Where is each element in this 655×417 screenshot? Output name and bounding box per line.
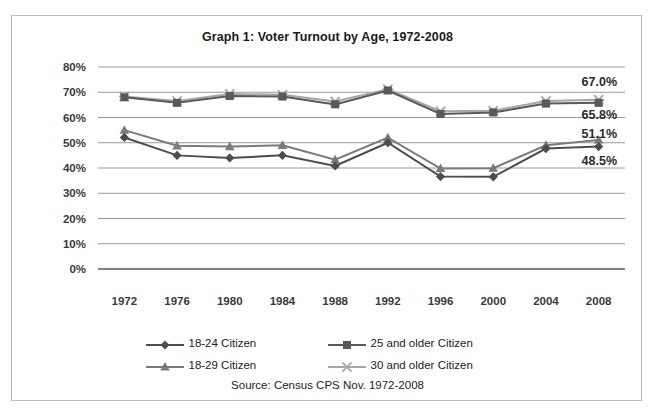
y-axis-tick-label: 40% — [63, 162, 86, 174]
legend-row-1: 18-24 Citizen 25 and older Citizen — [12, 332, 643, 354]
x-axis-tick-label: 2000 — [480, 295, 506, 307]
series-marker — [489, 108, 497, 116]
x-axis-tick-label: 1996 — [428, 295, 454, 307]
legend-row-2: 18-29 Citizen 30 and older Citizen — [12, 354, 643, 376]
legend-swatch-x-icon — [328, 359, 366, 371]
x-axis-tick-label: 1984 — [270, 295, 296, 307]
y-axis-tick-label: 50% — [63, 137, 86, 149]
series-line — [124, 90, 598, 113]
y-axis-tick-label: 10% — [63, 238, 86, 250]
x-axis-tick-label: 1988 — [322, 295, 348, 307]
legend-label: 18-24 Citizen — [189, 337, 257, 349]
series-marker — [437, 110, 445, 118]
series-marker — [226, 92, 234, 100]
series-line — [124, 130, 598, 168]
legend-label: 18-29 Citizen — [189, 359, 257, 371]
legend-swatch-diamond-icon — [146, 337, 184, 349]
legend-item-18-24-citizen[interactable]: 18-24 Citizen — [146, 337, 328, 349]
y-axis-tick-label: 60% — [63, 112, 86, 124]
y-axis-tick-label: 30% — [63, 187, 86, 199]
series-marker — [120, 133, 129, 142]
legend-label: 30 and older Citizen — [371, 359, 473, 371]
series-marker — [384, 86, 392, 94]
series-line — [124, 137, 598, 176]
series-marker — [278, 93, 286, 101]
x-axis-tick-label: 1972 — [112, 295, 138, 307]
legend-swatch-square-icon — [328, 337, 366, 349]
y-axis-tick-label: 20% — [63, 213, 86, 225]
series-marker — [120, 125, 130, 134]
y-axis-tick-label: 70% — [63, 86, 86, 98]
x-axis-tick-label: 1976 — [164, 295, 190, 307]
legend-item-30-and-older-citizen[interactable]: 30 and older Citizen — [328, 359, 510, 371]
series-marker — [331, 100, 339, 108]
series-marker — [120, 93, 128, 101]
series-marker — [173, 99, 181, 107]
legend-label: 25 and older Citizen — [371, 337, 473, 349]
y-axis-tick-label: 0% — [69, 263, 86, 275]
x-axis-tick-label: 2004 — [533, 295, 559, 307]
data-point-label: 67.0% — [582, 75, 617, 89]
y-axis-tick-label: 80% — [63, 61, 86, 73]
chart-plot-area: 80%70%60%50%40%30%20%10%0%19721976198019… — [12, 16, 643, 316]
series-marker — [225, 153, 234, 162]
legend-item-25-and-older-citizen[interactable]: 25 and older Citizen — [328, 337, 510, 349]
chart-figure: Graph 1: Voter Turnout by Age, 1972-2008… — [11, 15, 642, 401]
series-marker — [278, 151, 287, 160]
data-point-label: 51.1% — [582, 127, 617, 141]
series-marker — [595, 99, 603, 107]
legend-item-18-29-citizen[interactable]: 18-29 Citizen — [146, 359, 328, 371]
chart-source-note: Source: Census CPS Nov. 1972-2008 — [12, 379, 643, 391]
x-axis-tick-label: 1980 — [217, 295, 243, 307]
series-marker — [172, 151, 181, 160]
series-marker — [489, 172, 498, 181]
chart-legend: 18-24 Citizen 25 and older Citizen 18-29… — [12, 332, 643, 376]
legend-swatch-triangle-icon — [146, 359, 184, 371]
data-point-label: 65.8% — [582, 108, 617, 122]
data-point-label: 48.5% — [582, 154, 617, 168]
x-axis-tick-label: 2008 — [586, 295, 612, 307]
series-marker — [542, 100, 550, 108]
x-axis-tick-label: 1992 — [375, 295, 401, 307]
